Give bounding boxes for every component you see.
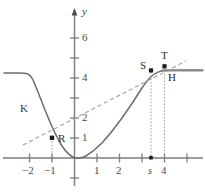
point-S [149,68,153,72]
point-label-S: S [140,60,146,71]
curve-K [4,70,203,158]
x-tick-label-s: s [148,166,152,176]
x-tick-label-1: 1 [94,165,100,176]
x-tick-label-2: 2 [116,165,122,176]
y-axis-arrow-icon [72,8,78,16]
y-tick-label-1: 1 [82,132,88,143]
y-tick-label-2: 2 [82,112,88,123]
point-label-R: R [58,133,65,144]
x-tick-label-neg1: −1 [44,165,56,176]
x-tick-label-4: 4 [161,165,167,176]
y-tick-label-4: 4 [82,72,88,83]
y-axis-label: y [82,6,87,17]
point-R [50,136,54,140]
math-figure-graph: y 1 2 4 6 −2 −1 1 2 s 4 K R S T H [0,0,205,192]
secant-line-RS [23,61,186,145]
y-tick-label-6: 6 [82,32,88,43]
asymptote-label-H: H [168,72,176,83]
x-tick-label-neg2: −2 [22,165,34,176]
curve-label-K: K [20,103,28,114]
point-label-T: T [161,50,168,61]
point-x-s [149,156,153,160]
point-T [162,64,166,68]
